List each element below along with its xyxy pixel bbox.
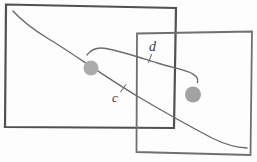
curve-d (87, 48, 198, 82)
label-c: c (112, 90, 118, 105)
figure-canvas: d c (0, 0, 257, 162)
label-d: d (149, 39, 157, 54)
diagram-svg: d c (0, 0, 257, 162)
right-dot (185, 87, 201, 103)
left-dot (84, 61, 99, 76)
